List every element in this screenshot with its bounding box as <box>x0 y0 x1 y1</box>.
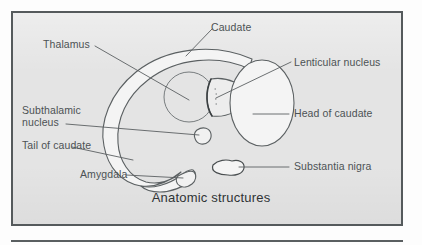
bottom-divider <box>11 240 403 242</box>
label-caudate: Caudate <box>211 22 251 34</box>
label-head-of-caudate: Head of caudate <box>294 108 373 120</box>
figure-caption: Anatomic structures <box>0 190 422 205</box>
subthalamic-nucleus-shape <box>194 128 211 144</box>
label-subthalamic-nucleus: Subthalamic nucleus <box>22 105 92 128</box>
label-lenticular-nucleus: Lenticular nucleus <box>294 57 380 69</box>
head-of-caudate-shape <box>230 60 294 146</box>
label-amygdala: Amygdala <box>80 169 128 181</box>
substantia-nigra-shape <box>212 160 244 175</box>
label-subthalamic-nucleus-line2: nucleus <box>22 116 59 128</box>
label-subthalamic-nucleus-line1: Subthalamic <box>22 104 81 116</box>
label-substantia-nigra: Substantia nigra <box>294 161 371 173</box>
label-tail-of-caudate: Tail of caudate <box>22 140 91 152</box>
label-thalamus: Thalamus <box>43 39 90 51</box>
